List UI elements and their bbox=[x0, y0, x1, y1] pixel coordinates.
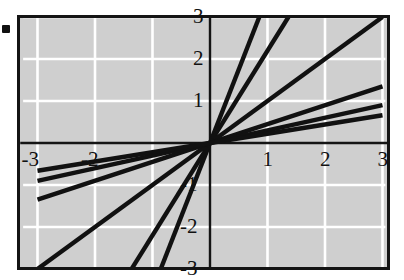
y-tick-2: 2 bbox=[193, 48, 204, 69]
y-tick-1: 1 bbox=[193, 90, 204, 111]
y-tick-neg3: -3 bbox=[180, 258, 198, 279]
x-tick-neg2: -2 bbox=[81, 149, 99, 170]
figure-root: -3-2123321-1-2-3 bbox=[0, 0, 404, 280]
y-tick-neg2: -2 bbox=[180, 216, 198, 237]
x-tick-1: 1 bbox=[263, 149, 274, 170]
y-tick-3: 3 bbox=[193, 6, 204, 27]
chart-canvas bbox=[0, 0, 404, 280]
x-tick-3: 3 bbox=[378, 149, 389, 170]
x-tick-2: 2 bbox=[320, 149, 331, 170]
y-tick-neg1: -1 bbox=[180, 174, 198, 195]
x-tick-neg3: -3 bbox=[22, 149, 40, 170]
